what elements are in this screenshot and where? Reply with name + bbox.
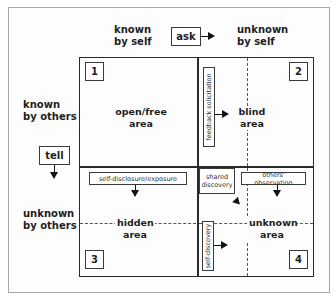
quadrant-1-number: 1 (85, 62, 104, 81)
others-observation-box: others' observation (241, 172, 306, 185)
quadrant-4-number: 4 (289, 250, 308, 269)
header-unknown-by-others: unknown by others (23, 208, 77, 232)
grid-horizontal-divider (79, 166, 314, 168)
open-area-label: open/free area (108, 106, 174, 130)
feedback-arrow-icon (222, 110, 229, 118)
header-known-by-others: known by others (23, 99, 77, 123)
unknown-area-label: unknown area (247, 217, 297, 241)
hidden-area-label: hidden area (115, 217, 155, 241)
feedback-solicitation-box: feedback solicitation (203, 67, 215, 147)
shared-discovery-box: shared discovery (199, 168, 235, 194)
tell-box: tell (39, 146, 70, 165)
self-discovery-box: self-discovery (202, 221, 214, 271)
dashed-vertical-line (247, 58, 248, 276)
self-disclosure-box: self-disclosure/exposure (89, 172, 187, 185)
self-discovery-arrow-icon (221, 241, 228, 249)
blind-area-label: blind area (234, 106, 270, 130)
header-known-by-self: known by self (114, 24, 152, 48)
ask-box: ask (171, 27, 201, 46)
disclosure-arrow-icon (131, 190, 139, 197)
tell-arrow-icon (50, 172, 58, 179)
header-unknown-by-self: unknown by self (237, 24, 288, 48)
observation-arrow-icon (273, 190, 281, 197)
quadrant-3-number: 3 (85, 250, 104, 269)
quadrant-2-number: 2 (289, 62, 308, 81)
ask-arrow-icon (208, 32, 215, 40)
